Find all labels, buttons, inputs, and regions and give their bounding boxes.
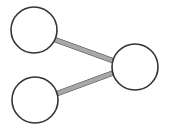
graph-node-n3[interactable]: [112, 44, 158, 90]
graph-node-n2[interactable]: [12, 77, 58, 123]
graph-diagram: [0, 0, 171, 133]
graph-canvas: [0, 0, 171, 133]
node-circle: [11, 7, 57, 53]
edge-core: [56, 72, 117, 95]
graph-node-n1[interactable]: [11, 7, 57, 53]
edge-layer: [55, 40, 118, 95]
node-circle: [112, 44, 158, 90]
node-circle: [12, 77, 58, 123]
node-layer: [11, 7, 158, 123]
graph-edge-n1-n3[interactable]: [55, 40, 117, 63]
graph-edge-n2-n3[interactable]: [56, 72, 117, 95]
edge-core: [55, 40, 117, 63]
